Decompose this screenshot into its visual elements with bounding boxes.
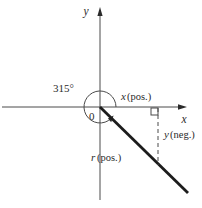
y-axis-arrow-icon (97, 7, 102, 16)
angle-diagram: y x 315° 0 x (pos.) y (neg.) r (pos.) (0, 0, 202, 208)
r-component-var-label: r (91, 151, 96, 163)
right-angle-marker (151, 108, 158, 115)
y-component-qualifier-label: (neg.) (170, 129, 195, 141)
terminal-side-r-line (100, 107, 188, 193)
diagram-canvas: y x 315° 0 x (pos.) y (neg.) r (pos.) (0, 0, 202, 208)
r-component-qualifier-label: (pos.) (97, 152, 122, 164)
x-axis-label: x (180, 113, 187, 125)
y-component-var-label: y (163, 128, 169, 140)
origin-label: 0 (89, 110, 95, 122)
x-component-qualifier-label: (pos.) (127, 91, 152, 103)
y-axis-label: y (82, 5, 89, 18)
angle-value-label: 315° (53, 82, 74, 94)
x-axis-arrow-icon (178, 104, 187, 109)
x-component-var-label: x (120, 90, 126, 102)
